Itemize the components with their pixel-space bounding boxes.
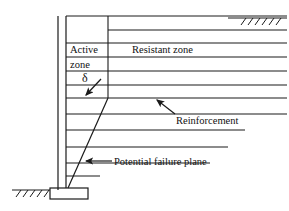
reinforcement-leader-arrow-icon bbox=[157, 100, 175, 114]
potential-failure-plane-line bbox=[68, 98, 108, 188]
wall-footing bbox=[50, 188, 88, 199]
ground-surface-left-hatch-icon bbox=[12, 190, 50, 197]
ground-surface-right-hatch-icon bbox=[228, 18, 287, 25]
resistant-zone-label: Resistant zone bbox=[132, 44, 193, 55]
delta-leader-arrow-icon bbox=[86, 79, 101, 95]
diagram-canvas: Active zone Resistant zone δ Reinforceme… bbox=[0, 0, 289, 211]
active-zone-label-line1: Active bbox=[70, 44, 98, 55]
retaining-wall-diagram: Active zone Resistant zone δ Reinforceme… bbox=[0, 0, 289, 211]
delta-symbol-label: δ bbox=[82, 71, 88, 85]
potential-failure-plane-label: Potential failure plane bbox=[114, 156, 207, 167]
active-zone-label-line2: zone bbox=[70, 59, 90, 70]
retaining-wall-facing bbox=[58, 16, 66, 190]
reinforcement-label: Reinforcement bbox=[176, 115, 238, 126]
